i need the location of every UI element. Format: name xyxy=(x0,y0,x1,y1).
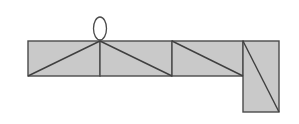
hanging-loop xyxy=(94,17,107,40)
panels-group xyxy=(28,41,279,112)
folding-net-diagram xyxy=(0,0,299,124)
